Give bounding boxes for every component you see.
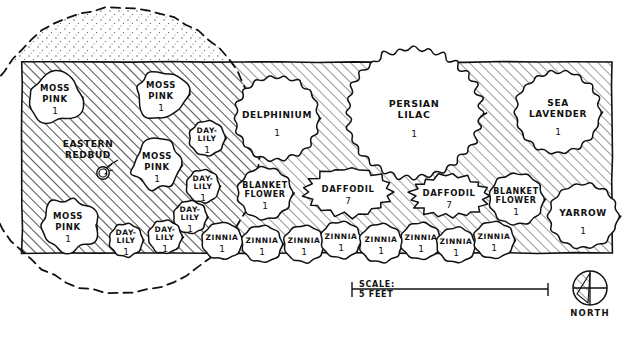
plant-quantity-persian-lilac: 1	[411, 129, 417, 139]
plant-label-text: DAY-	[196, 126, 217, 135]
plant-quantity-blanket-flower-1: 1	[262, 201, 268, 211]
plant-label-text: DAY-	[179, 205, 200, 214]
plant-quantity-moss-pink-2: 1	[158, 103, 164, 113]
garden-planting-plan: MOSSPINK1MOSSPINK1MOSSPINK1MOSSPINK1EAST…	[0, 0, 643, 337]
plant-quantity-day-lily-5: 1	[123, 247, 129, 257]
plant-label-text: ZINNIA	[440, 237, 473, 246]
plant-label-text: EASTERN	[63, 139, 114, 149]
plant-label-text: LILY	[193, 182, 212, 191]
plant-label-text: ZINNIA	[405, 233, 438, 242]
plant-label-text: ZINNIA	[325, 232, 358, 241]
plant-label-text: ZINNIA	[478, 232, 511, 241]
plant-label-text: LILY	[116, 236, 135, 245]
plant-label-text: FLOWER	[495, 196, 536, 205]
plant-label-text: DAY-	[154, 225, 175, 234]
plant-label-text: BLANKET	[242, 181, 287, 190]
plant-label-text: DAY-	[115, 228, 136, 237]
plant-label-eastern-redbud: EASTERNREDBUD	[63, 139, 114, 160]
plan-drawing-canvas: MOSSPINK1MOSSPINK1MOSSPINK1MOSSPINK1EAST…	[0, 0, 643, 337]
plant-label-text: MOSS	[142, 151, 172, 161]
plant-label-text: PERSIAN	[389, 98, 440, 109]
scale-bar-label: SCALE:	[359, 280, 395, 289]
plant-label-text: MOSS	[53, 211, 83, 221]
plant-label-text: PINK	[55, 222, 81, 232]
plant-quantity-day-lily-3: 1	[187, 224, 193, 234]
plant-label-text: LILY	[155, 233, 174, 242]
plant-quantity-zinnia-8: 1	[491, 243, 497, 253]
plant-quantity-day-lily-1: 1	[204, 145, 210, 155]
plant-label-text: DELPHINIUM	[242, 110, 312, 120]
plant-quantity-zinnia-6: 1	[418, 244, 424, 254]
plant-quantity-day-lily-4: 1	[162, 244, 168, 254]
plant-quantity-moss-pink-1: 1	[52, 106, 58, 116]
plant-label-text: ZINNIA	[288, 236, 321, 245]
plant-quantity-yarrow: 1	[580, 226, 586, 236]
plant-quantity-moss-pink-3: 1	[154, 174, 160, 184]
plant-quantity-zinnia-3: 1	[301, 247, 307, 257]
plant-label-text: FLOWER	[244, 190, 285, 199]
plant-quantity-zinnia-4: 1	[338, 243, 344, 253]
plant-label-text: LILY	[197, 134, 216, 143]
plant-quantity-zinnia-2: 1	[259, 247, 265, 257]
plant-label-text: DAFFODIL	[322, 184, 375, 194]
plant-label-text: ZINNIA	[206, 233, 239, 242]
plant-quantity-daffodil-1: 7	[345, 196, 351, 206]
plant-label-text: ZINNIA	[246, 236, 279, 245]
plant-label-text: LILAC	[398, 109, 431, 120]
plant-quantity-moss-pink-4: 1	[65, 234, 71, 244]
plant-label-text: MOSS	[146, 80, 176, 90]
plant-quantity-blanket-flower-2: 1	[513, 207, 519, 217]
plant-label-text: YARROW	[558, 208, 607, 218]
plant-quantity-delphinium: 1	[274, 128, 280, 138]
plant-label-text: PINK	[148, 91, 174, 101]
plant-quantity-day-lily-2: 1	[200, 193, 206, 203]
plant-quantity-daffodil-2: 7	[446, 200, 452, 210]
plant-label-text: ZINNIA	[365, 235, 398, 244]
plant-label-text: PINK	[144, 162, 170, 172]
north-compass-rose: NORTH	[570, 271, 609, 318]
plant-quantity-zinnia-1: 1	[219, 244, 225, 254]
scale-bar-units: 5 FEET	[359, 290, 393, 299]
plant-label-text: DAY-	[192, 174, 213, 183]
plant-label-text: REDBUD	[65, 150, 111, 160]
plant-label-text: BLANKET	[493, 187, 538, 196]
plant-label-text: LILY	[180, 213, 199, 222]
plant-label-text: PINK	[42, 94, 68, 104]
plant-label-text: MOSS	[40, 83, 70, 93]
scale-bar: SCALE:5 FEET	[352, 280, 548, 299]
plant-quantity-sea-lavender: 1	[555, 127, 561, 137]
plant-label-text: DAFFODIL	[423, 188, 476, 198]
compass-north-label: NORTH	[570, 308, 609, 318]
plant-label-text: LAVENDER	[529, 109, 587, 119]
plant-label-text: SEA	[547, 98, 568, 108]
plant-quantity-zinnia-7: 1	[453, 248, 459, 258]
plant-quantity-zinnia-5: 1	[378, 246, 384, 256]
